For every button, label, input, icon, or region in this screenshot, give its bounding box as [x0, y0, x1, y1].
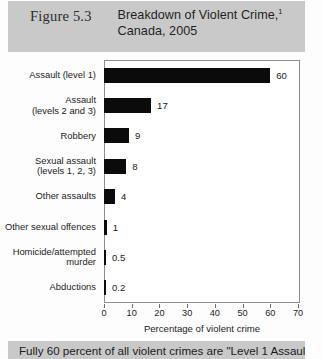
bar-row: 9 [104, 121, 300, 151]
bar-row: 17 [104, 90, 300, 120]
figure-title: Breakdown of Violent Crime,1 Canada, 200… [118, 8, 283, 39]
x-axis-title: Percentage of violent crime [104, 323, 300, 334]
axis-tick-label: 70 [293, 308, 303, 318]
axis-tick-label: 30 [182, 308, 192, 318]
bar [104, 128, 129, 143]
bar-row: 8 [104, 151, 300, 181]
bar-row: 1 [104, 212, 300, 242]
bar-value-label: 9 [135, 130, 140, 141]
value-axis: 010203040506070 [104, 304, 300, 320]
figure-header-band: Figure 5.3 Breakdown of Violent Crime,1 … [8, 1, 305, 52]
axis-tick-label: 40 [210, 308, 220, 318]
category-label: Homicide/attemptedmurder [0, 242, 100, 272]
category-label: Other sexual offences [0, 212, 100, 242]
axis-tick-label: 10 [127, 308, 137, 318]
category-label: Other assaults [0, 182, 100, 212]
axis-tick-label: 60 [265, 308, 275, 318]
category-axis-labels: Assault (level 1)Assault(levels 2 and 3)… [0, 60, 100, 303]
figure-footer-band: Fully 60 percent of all violent crimes a… [8, 341, 305, 359]
bar-value-label: 8 [132, 161, 137, 172]
category-label: Abductions [0, 273, 100, 303]
bar [104, 159, 126, 174]
figure-title-line-1: Breakdown of Violent Crime,1 [118, 8, 283, 24]
bar-value-label: 17 [157, 100, 168, 111]
bar-row: 4 [104, 182, 300, 212]
bar [104, 250, 106, 265]
category-label: Assault (level 1) [0, 60, 100, 90]
category-label: Robbery [0, 121, 100, 151]
category-label: Assault(levels 2 and 3) [0, 90, 100, 120]
bar [104, 220, 107, 235]
category-label-line: Other assaults [36, 191, 96, 202]
category-label-line: Assault (level 1) [29, 70, 96, 81]
axis-tick-label: 0 [101, 308, 106, 318]
bar [104, 189, 115, 204]
category-label: Sexual assault(levels 1, 2, 3) [0, 151, 100, 181]
bar [104, 280, 106, 295]
bar-value-label: 0.2 [112, 282, 125, 293]
bar-row: 0.5 [104, 242, 300, 272]
category-label-line: (levels 1, 2, 3) [37, 166, 96, 177]
bar [104, 98, 151, 113]
bar-value-label: 60 [276, 70, 287, 81]
figure-title-line-2: Canada, 2005 [118, 24, 283, 40]
bar-value-label: 0.5 [112, 252, 125, 263]
bar [104, 68, 270, 83]
axis-tick-label: 20 [154, 308, 164, 318]
bar-row: 60 [104, 60, 300, 90]
category-label-line: Other sexual offences [5, 222, 96, 233]
bar-value-label: 4 [121, 191, 126, 202]
bar-rows: 601798410.50.2 [104, 60, 300, 303]
category-label-line: Robbery [61, 131, 96, 142]
axis-tick-label: 50 [237, 308, 247, 318]
bar-chart: Assault (level 1)Assault(levels 2 and 3)… [0, 58, 323, 308]
figure-number: Figure 5.3 [30, 8, 92, 25]
figure-title-text: Breakdown of Violent Crime, [118, 8, 279, 22]
bar-row: 0.2 [104, 273, 300, 303]
category-label-line: Abductions [50, 282, 96, 293]
figure-title-footnote-marker: 1 [278, 7, 282, 16]
category-label-line: murder [66, 257, 96, 268]
category-label-line: (levels 2 and 3) [32, 106, 96, 117]
figure-container: Figure 5.3 Breakdown of Violent Crime,1 … [0, 0, 323, 359]
bar-value-label: 1 [113, 222, 118, 233]
category-label-line: Assault [65, 95, 96, 106]
figure-footer-text: Fully 60 percent of all violent crimes a… [19, 344, 305, 357]
